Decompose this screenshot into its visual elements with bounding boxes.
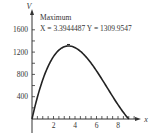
y-tick-label: 800 xyxy=(17,70,29,79)
x-axis-arrow xyxy=(135,117,141,121)
x-tick-label: 6 xyxy=(95,121,99,130)
annotation-label: Maximum xyxy=(40,13,71,22)
annotation-text: X = 3.3944487 Y = 1309.9547 xyxy=(40,24,132,33)
y-axis-label: V xyxy=(27,2,33,11)
y-tick-label: 1600 xyxy=(13,25,28,34)
x-tick-label: 4 xyxy=(73,121,77,130)
chart: V x 246840080012001600 Maximum X = 3.394… xyxy=(0,0,152,137)
annotation: Maximum X = 3.3944487 Y = 1309.9547 xyxy=(40,13,132,44)
x-tick-label: 8 xyxy=(116,121,120,130)
series-line xyxy=(32,46,129,119)
y-tick-label: 400 xyxy=(17,92,29,101)
x-tick-label: 2 xyxy=(52,121,56,130)
y-tick-label: 1200 xyxy=(13,48,28,57)
tick-labels: 246840080012001600 xyxy=(13,25,120,130)
x-axis-label: x xyxy=(143,115,148,124)
